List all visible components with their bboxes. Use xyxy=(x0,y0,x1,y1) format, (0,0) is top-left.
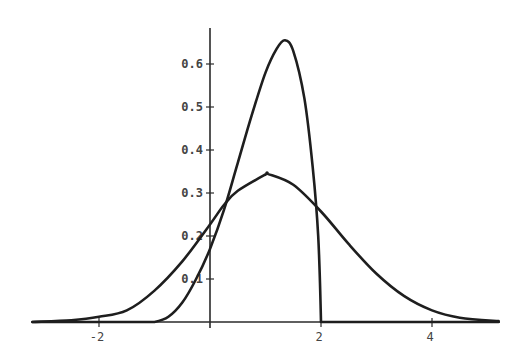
x-tick-label: 2 xyxy=(315,330,322,344)
y-tick-label: 0.4 xyxy=(181,143,203,157)
y-tick-label: 0.5 xyxy=(181,100,203,114)
y-tick-label: 0.3 xyxy=(181,186,203,200)
tall-skewed-curve xyxy=(32,40,498,322)
bell-curve xyxy=(32,173,498,322)
y-tick-label: 0.2 xyxy=(181,229,203,243)
y-axis: 0.10.20.30.40.50.6 xyxy=(181,28,214,328)
y-tick-label: 0.6 xyxy=(181,57,203,71)
chart: -224 0.10.20.30.40.50.6 xyxy=(0,0,526,355)
x-tick-label: 4 xyxy=(426,330,433,344)
plot-series xyxy=(32,40,498,322)
x-tick-label: -2 xyxy=(90,330,104,344)
